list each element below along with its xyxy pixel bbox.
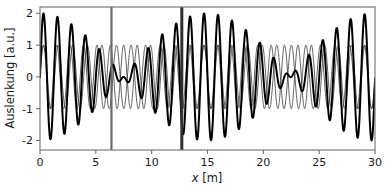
plot-area: 051015202530 -2-1012	[22, 7, 382, 169]
x-tick-label: 0	[37, 156, 44, 169]
y-tick-label: 0	[26, 71, 33, 84]
data-curves	[40, 7, 375, 150]
x-tick-label: 25	[312, 156, 326, 169]
x-axis-ticks: 051015202530	[37, 150, 383, 169]
y-axis-ticks: -2-1012	[22, 7, 40, 147]
figure-canvas: 051015202530 -2-1012 x [m] Auslenkung [a…	[0, 0, 385, 190]
x-axis-label: x [m]	[191, 171, 223, 185]
y-tick-label: -1	[22, 103, 33, 116]
wave-superposition-plot: 051015202530 -2-1012 x [m] Auslenkung [a…	[0, 0, 385, 190]
x-tick-label: 30	[368, 156, 382, 169]
y-axis-label: Auslenkung [a.u.]	[3, 27, 17, 128]
x-tick-label: 15	[201, 156, 215, 169]
y-tick-label: 1	[26, 39, 33, 52]
x-axis-label-unit: [m]	[202, 171, 222, 185]
y-tick-label: 2	[26, 7, 33, 20]
x-tick-label: 5	[92, 156, 99, 169]
x-tick-label: 20	[256, 156, 270, 169]
x-tick-label: 10	[145, 156, 159, 169]
x-axis-label-symbol: x	[191, 171, 199, 185]
y-tick-label: -2	[22, 134, 33, 147]
superposition-curve	[40, 13, 375, 140]
